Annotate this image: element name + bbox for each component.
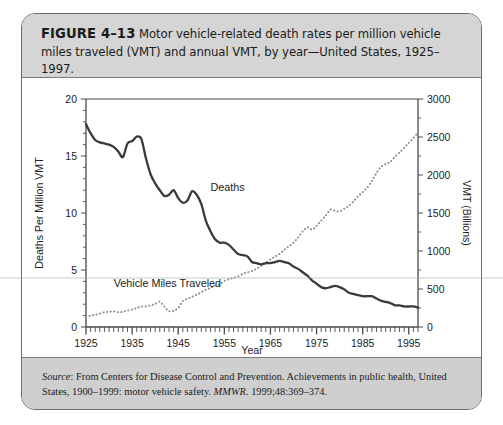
svg-text:5: 5: [71, 264, 77, 276]
svg-text:1995: 1995: [397, 337, 421, 349]
source-journal: MMWR: [214, 386, 246, 397]
svg-text:0: 0: [427, 321, 433, 333]
x-axis-minor-ticks: [91, 327, 418, 332]
svg-text:1975: 1975: [305, 337, 329, 349]
vmt-series-line: [86, 132, 418, 317]
source-prefix: Source: [42, 371, 70, 382]
svg-text:1955: 1955: [213, 337, 237, 349]
svg-text:2000: 2000: [427, 169, 451, 181]
svg-text:1935: 1935: [120, 337, 144, 349]
motor-vehicle-death-rate-chart: 05101520 050010001500200025003000 192519…: [22, 78, 481, 359]
right-axis-tick-labels: 050010001500200025003000: [427, 93, 451, 333]
svg-text:20: 20: [65, 93, 77, 105]
figure-caption-band: FIGURE 4–13 Motor vehicle-related death …: [22, 14, 481, 78]
svg-text:1925: 1925: [74, 337, 98, 349]
svg-text:1500: 1500: [427, 207, 451, 219]
svg-text:3000: 3000: [427, 93, 451, 105]
right-axis-title: VMT (Billions): [461, 180, 473, 246]
svg-text:0: 0: [71, 321, 77, 333]
left-axis-ticks: [81, 99, 86, 327]
svg-text:10: 10: [65, 207, 77, 219]
left-axis-title: Deaths Per Million VMT: [33, 157, 45, 269]
svg-text:500: 500: [427, 283, 445, 295]
deaths-series-annotation: Deaths: [211, 181, 246, 193]
figure-caption: FIGURE 4–13 Motor vehicle-related death …: [41, 25, 464, 79]
figure-container: FIGURE 4–13 Motor vehicle-related death …: [21, 13, 482, 410]
x-axis-title: Year: [241, 344, 263, 356]
left-axis-tick-labels: 05101520: [65, 93, 77, 333]
source-citation: . 1999;48:369–374.: [246, 386, 327, 397]
right-axis-ticks: [418, 99, 423, 327]
figure-number-label: FIGURE 4–13: [41, 26, 135, 41]
vmt-series-annotation: Vehicle Miles Traveled: [114, 277, 221, 289]
svg-text:2500: 2500: [427, 131, 451, 143]
chart-plot-region: 05101520 050010001500200025003000 192519…: [22, 78, 481, 359]
figure-source: Source: From Centers for Disease Control…: [42, 369, 461, 399]
svg-text:1000: 1000: [427, 245, 451, 257]
svg-text:1985: 1985: [351, 337, 375, 349]
svg-text:1945: 1945: [167, 337, 191, 349]
svg-text:15: 15: [65, 150, 77, 162]
axis-frame: [86, 99, 418, 327]
figure-source-band: Source: From Centers for Disease Control…: [22, 357, 481, 409]
